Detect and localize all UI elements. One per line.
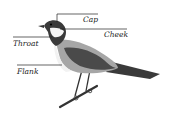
leg-front — [75, 70, 82, 96]
beak — [38, 25, 44, 28]
eye — [50, 23, 52, 25]
label-throat: Throat — [13, 39, 38, 48]
label-flank: Flank — [17, 67, 38, 76]
branch — [60, 86, 97, 107]
label-cheek: Cheek — [104, 30, 128, 39]
label-cap: Cap — [83, 15, 98, 24]
